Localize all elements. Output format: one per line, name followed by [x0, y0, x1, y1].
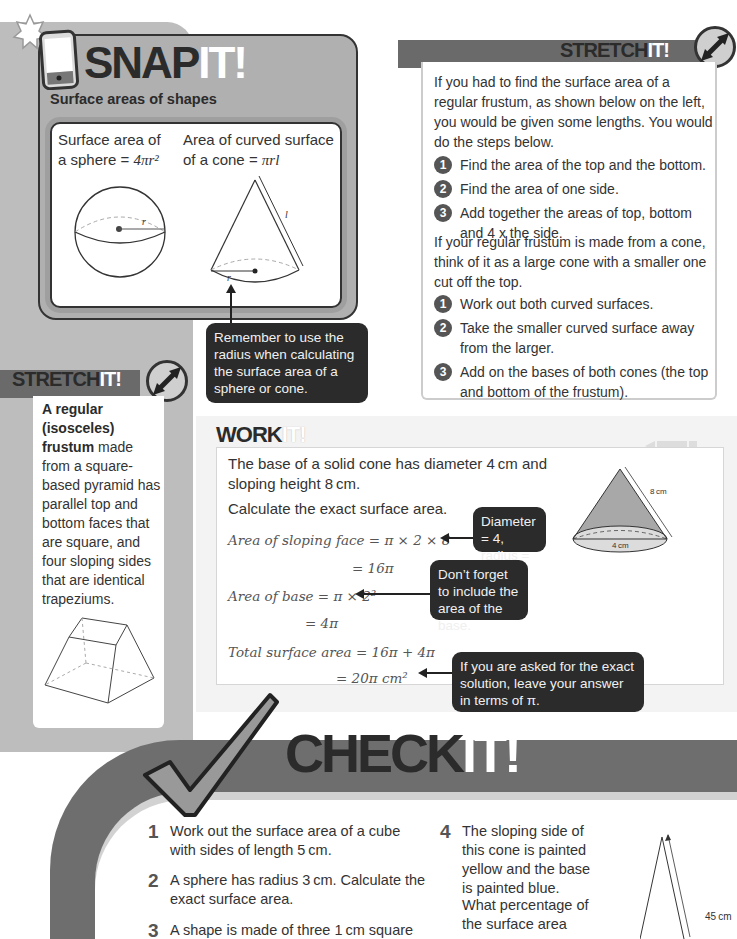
working-line: Area of sloping face = π × 2 × 8	[228, 532, 450, 548]
arrow-left-icon	[440, 533, 474, 543]
question-3: 3A shape is made of three 1 cm square	[148, 921, 428, 939]
working-line: Total surface area = 16π + 4π	[228, 644, 435, 660]
sphere-formula-text: Surface area of a sphere = 4πr²	[58, 130, 161, 170]
phone-camera-icon	[10, 10, 80, 90]
workit-question: The base of a solid cone has diameter 4 …	[228, 454, 558, 494]
frustum-definition-text: A regular (isosceles) frustum made from …	[42, 400, 162, 609]
question-4-continued: What percentage of the surface area	[462, 896, 602, 934]
question-4: 4The sloping side of this cone is painte…	[440, 822, 600, 898]
working-line: = 20π cm²	[336, 670, 408, 686]
arrow-left-icon	[418, 668, 453, 678]
callout-arrow-up	[226, 284, 236, 326]
question-1: 1Work out the surface area of a cube wit…	[148, 822, 428, 860]
working-line: = 16π	[352, 560, 394, 576]
cone-frustum-intro-text: If your regular frustum is made from a c…	[434, 232, 714, 292]
workit-cone-diagram: 8 cm 4 cm	[570, 464, 680, 564]
stretchit-left-title: STRETCHIT!	[12, 368, 121, 391]
step-item: 2Find the area of one side.	[434, 179, 712, 199]
snapit-title: SNAPIT!	[84, 38, 246, 88]
cone-frustum-steps-list: 1Work out both curved surfaces. 2Take th…	[434, 294, 712, 406]
question-2: 2A sphere has radius 3 cm. Calculate the…	[148, 871, 428, 909]
cone-diagram: r l	[205, 170, 315, 320]
checkit-cone-diagram	[640, 832, 710, 939]
exact-answer-callout: If you are asked for the exact solution,…	[452, 652, 644, 712]
sphere-diagram: r	[70, 182, 170, 282]
arrow-left-icon	[355, 589, 431, 599]
step-item: 3Add on the bases of both cones (the top…	[434, 362, 712, 402]
workit-title: WORKIT!	[216, 422, 306, 448]
step-item: 1Work out both curved surfaces.	[434, 294, 712, 314]
cone-radius-label: r	[227, 272, 231, 283]
base-area-callout: Don’t forget to include the area of the …	[430, 560, 528, 620]
working-line: Area of base = π × 2²	[228, 588, 376, 604]
cone-slant-label: 45 cm	[705, 911, 731, 922]
snapit-subtitle: Surface areas of shapes	[50, 91, 217, 107]
step-item: 1Find the area of the top and the bottom…	[434, 155, 712, 175]
sphere-radius-label: r	[142, 216, 146, 227]
cone-slant-label: l	[285, 209, 288, 220]
working-line: = 4π	[305, 615, 338, 631]
diameter-label: 4 cm	[612, 541, 629, 550]
stretchit-right-title: STRETCHIT!	[560, 39, 669, 62]
slant-height-label: 8 cm	[650, 487, 667, 496]
frustum-intro-text: If you had to find the surface area of a…	[434, 72, 714, 152]
cone-formula-text: Area of curved surface of a cone = πrl	[183, 130, 334, 170]
workit-instruction: Calculate the exact surface area.	[228, 500, 447, 517]
step-item: 2Take the smaller curved surface away fr…	[434, 318, 712, 358]
radius-reminder-callout: Remember to use the radius when calculat…	[206, 323, 368, 403]
diameter-callout: Diameter = 4, radius = 2.	[473, 507, 546, 552]
check-tick-icon	[135, 690, 285, 820]
checkit-title: CHECKIT!	[285, 722, 519, 784]
